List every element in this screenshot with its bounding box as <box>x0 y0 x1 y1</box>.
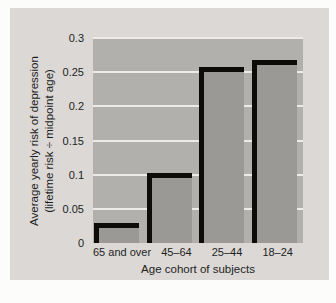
y-tick-label-0.05: 0.05 <box>14 202 84 216</box>
bar-65 and over <box>99 228 139 243</box>
y-tick-label-0.1: 0.1 <box>14 168 84 182</box>
bar-18–24 <box>257 65 297 243</box>
bar-45–64 <box>152 178 192 243</box>
bar-fill <box>204 72 244 243</box>
screenshot-root: { "chart_data": { "type": "bar", "title"… <box>0 0 336 303</box>
y-axis-ticks: 00.050.10.150.20.250.3 <box>10 38 89 243</box>
y-tick-label-0.15: 0.15 <box>14 134 84 148</box>
y-tick-label-0.25: 0.25 <box>14 65 84 79</box>
x-axis-labels: 65 and over45–6425–4418–24 <box>93 246 303 259</box>
x-tick-label-65 and over: 65 and over <box>93 246 151 259</box>
x-tick-label-18–24: 18–24 <box>252 246 303 259</box>
x-tick-label-45–64: 45–64 <box>151 246 202 259</box>
figure-panel: Average yearly risk of depression (lifet… <box>10 8 329 280</box>
bar-fill <box>257 65 297 243</box>
bar-fill <box>152 178 192 243</box>
gridline-0.3 <box>93 37 303 39</box>
bar-fill <box>99 228 139 243</box>
x-tick-label-25–44: 25–44 <box>202 246 253 259</box>
plot-area <box>93 38 303 243</box>
y-tick-label-0.2: 0.2 <box>14 99 84 113</box>
y-tick-label-0.3: 0.3 <box>14 31 84 45</box>
y-tick-label-0: 0 <box>14 236 84 250</box>
x-axis-title: Age cohort of subjects <box>93 263 303 275</box>
bar-25–44 <box>204 72 244 243</box>
